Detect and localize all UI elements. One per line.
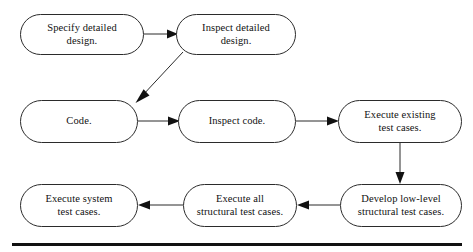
edge-develop-low-level-to-execute-all	[297, 201, 340, 210]
node-execute-all-structural-test-cases[interactable]: Execute all structural test cases.	[183, 184, 297, 227]
node-label: Inspect detailed design.	[202, 22, 270, 47]
node-inspect-code[interactable]: Inspect code.	[178, 100, 296, 143]
node-label: Develop low-level structural test cases.	[358, 193, 444, 218]
edge-execute-all-to-execute-system	[138, 201, 183, 210]
node-inspect-detailed-design[interactable]: Inspect detailed design.	[176, 14, 296, 55]
node-label: Code.	[66, 115, 91, 127]
node-develop-low-level-structural-test-cases[interactable]: Develop low-level structural test cases.	[340, 184, 462, 227]
node-label: Execute existing test cases.	[364, 109, 435, 134]
node-label: Execute all structural test cases.	[197, 193, 283, 218]
edge-execute-existing-to-develop-low-level	[396, 143, 405, 184]
edge-inspect-design-to-code	[136, 52, 184, 103]
flowchart-diagram: Specify detailed design. Inspect detaile…	[0, 0, 473, 252]
page-bottom-rule	[12, 243, 462, 246]
node-execute-system-test-cases[interactable]: Execute system test cases.	[20, 184, 138, 227]
node-label: Inspect code.	[209, 115, 266, 127]
edge-code-to-inspect-code	[138, 117, 180, 126]
node-label: Specify detailed design.	[47, 22, 117, 47]
edge-inspect-code-to-execute-existing	[296, 117, 339, 126]
edge-specify-to-inspect-design	[144, 30, 178, 39]
node-execute-existing-test-cases[interactable]: Execute existing test cases.	[338, 100, 462, 143]
node-label: Execute system test cases.	[45, 193, 112, 218]
node-code[interactable]: Code.	[20, 100, 138, 143]
node-specify-detailed-design[interactable]: Specify detailed design.	[20, 14, 144, 55]
